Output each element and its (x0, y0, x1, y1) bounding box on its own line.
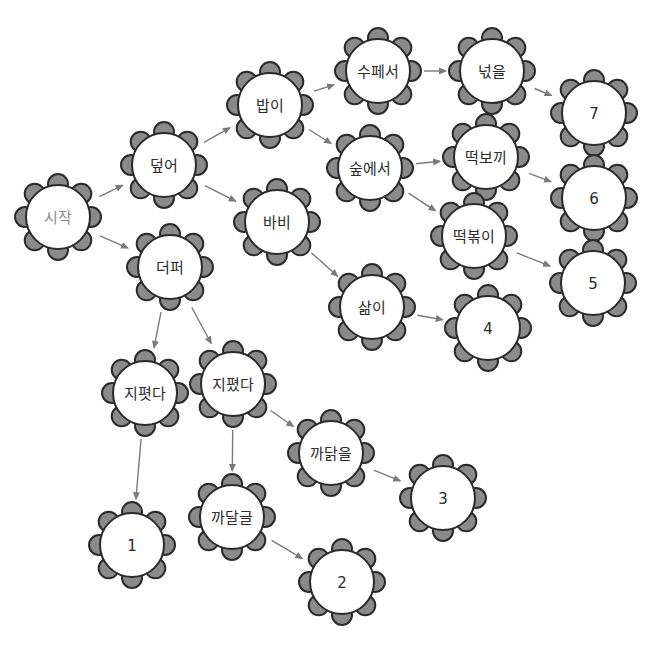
node-label: 1 (127, 537, 137, 555)
node-salmi: 삶이 (329, 264, 415, 350)
node-label: 시작 (44, 209, 72, 227)
arrow-supeseo2-to-ttbokki2 (409, 193, 436, 211)
node-label: 덮어 (150, 157, 178, 175)
arrow-jipyeot-to-n1 (136, 439, 141, 499)
node-n6: 6 (551, 155, 637, 241)
node-label: 까달글 (211, 509, 253, 527)
arrow-start-to-deopeo (99, 185, 122, 196)
node-n3: 3 (400, 455, 486, 541)
node-label: 6 (589, 190, 599, 208)
nodes-layer: 시작덮어더퍼밥이바비수페서숲에서삶이넋을떡보끼떡볶이7654지폇다지폈다까닭을까… (15, 28, 637, 625)
node-n5: 5 (550, 240, 636, 326)
node-babi1: 밥이 (227, 62, 313, 148)
node-label: 2 (337, 574, 347, 592)
node-label: 7 (589, 105, 599, 123)
node-label: 더퍼 (156, 259, 184, 277)
arrow-deopeo2-to-jipyeot2 (192, 308, 211, 344)
node-label: 떡볶이 (453, 228, 495, 246)
node-n4: 4 (445, 285, 531, 371)
node-deopeo: 덮어 (121, 122, 207, 208)
node-label: 지폇다 (124, 385, 166, 403)
node-supeseo: 수페서 (335, 28, 421, 114)
node-ttbokki2: 떡볶이 (431, 193, 517, 279)
arrow-babi1-to-supeseo2 (309, 130, 331, 144)
node-label: 떡보끼 (465, 149, 507, 167)
node-jipyeot: 지폇다 (102, 350, 188, 436)
node-label: 숲에서 (349, 160, 391, 178)
node-supeseo2: 숲에서 (327, 125, 413, 211)
node-start: 시작 (15, 174, 101, 260)
arrow-jipyeot2-to-kkadal (271, 411, 294, 427)
node-deopeo2: 더퍼 (127, 224, 213, 310)
node-label: 바비 (263, 214, 291, 232)
arrow-deopeo-to-babi2 (205, 186, 236, 202)
node-ttbokki1: 떡보끼 (443, 114, 529, 200)
node-neoks: 넋을 (449, 28, 535, 114)
node-n1: 1 (89, 502, 175, 588)
node-kkadal: 까닭을 (288, 410, 374, 496)
arrow-start-to-deopeo2 (100, 236, 128, 248)
arrow-deopeo-to-babi1 (204, 128, 230, 143)
node-jipyeot2: 지폈다 (190, 341, 276, 427)
node-label: 삶이 (358, 299, 386, 317)
arrow-salmi-to-n4 (417, 315, 442, 320)
node-label: 까닭을 (310, 445, 352, 463)
node-babi2: 바비 (234, 179, 320, 265)
node-label: 3 (438, 490, 448, 508)
arrow-ttbokki1-to-n6 (529, 173, 551, 181)
node-label: 5 (588, 275, 598, 293)
arrow-babi1-to-supeseo (314, 85, 334, 91)
arrow-supeseo2-to-ttbokki1 (416, 161, 440, 163)
arrow-ttbokki2-to-n5 (517, 253, 550, 266)
arrow-babi2-to-salmi (311, 253, 337, 277)
node-n7: 7 (551, 70, 637, 156)
node-label: 수페서 (357, 63, 399, 81)
decision-tree-diagram: 시작덮어더퍼밥이바비수페서숲에서삶이넋을떡보끼떡볶이7654지폇다지폈다까닭을까… (0, 0, 655, 651)
arrow-deopeo2-to-jipyeot (154, 312, 161, 348)
node-n2: 2 (299, 539, 385, 625)
node-label: 넋을 (478, 63, 506, 81)
node-label: 4 (483, 320, 493, 338)
node-label: 밥이 (256, 97, 284, 115)
node-kkadal2: 까달글 (189, 474, 275, 560)
arrow-neoks-to-n7 (535, 89, 552, 96)
arrow-kkadal2-to-n2 (272, 540, 303, 558)
arrow-kkadal-to-n3 (374, 470, 401, 481)
node-label: 지폈다 (212, 376, 254, 394)
